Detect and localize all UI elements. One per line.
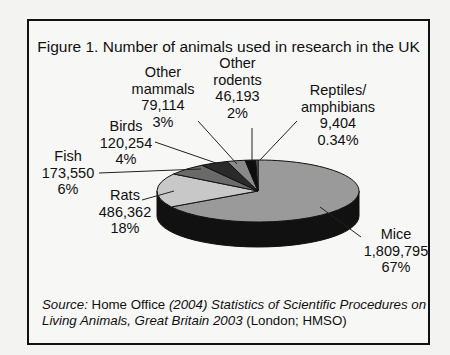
label-mice: Mice 1,809,795 67% <box>362 226 430 276</box>
leader-line <box>198 121 237 164</box>
label-count: 120,254 <box>96 135 156 152</box>
label-count: 1,809,795 <box>362 243 430 260</box>
label-birds: Birds 120,254 4% <box>96 118 156 168</box>
label-name: Other <box>123 64 203 81</box>
label-pct: 0.34% <box>290 132 386 149</box>
label-count: 79,114 <box>123 97 203 114</box>
label-count: 173,550 <box>38 165 98 182</box>
label-reptiles-amphibians: Reptiles/ amphibians 9,404 0.34% <box>290 82 386 148</box>
label-name: Mice <box>362 226 430 243</box>
label-name: Rats <box>93 187 157 204</box>
label-fish: Fish 173,550 6% <box>38 148 98 198</box>
label-name: Reptiles/ <box>290 82 386 99</box>
label-pct: 67% <box>362 259 430 276</box>
label-name: Other <box>200 55 275 72</box>
label-name: mammals <box>123 81 203 98</box>
label-pct: 4% <box>96 151 156 168</box>
label-name: rodents <box>200 72 275 89</box>
label-other-rodents: Other rodents 46,193 2% <box>200 55 275 121</box>
label-name: amphibians <box>290 99 386 116</box>
label-count: 9,404 <box>290 115 386 132</box>
label-pct: 2% <box>200 105 275 122</box>
label-pct: 6% <box>38 181 98 198</box>
label-name: Birds <box>96 118 156 135</box>
label-count: 46,193 <box>200 88 275 105</box>
label-pct: 18% <box>93 220 157 237</box>
leader-line <box>155 142 216 163</box>
label-rats: Rats 486,362 18% <box>93 187 157 237</box>
label-count: 486,362 <box>93 204 157 221</box>
label-name: Fish <box>38 148 98 165</box>
